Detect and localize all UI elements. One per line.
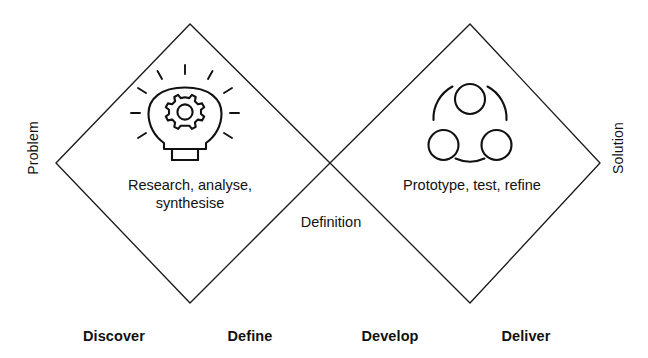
center-label-definition: Definition: [288, 214, 374, 230]
problem-diamond-shape: [56, 24, 330, 303]
stage-label-develop: Develop: [340, 328, 440, 344]
solution-diamond-description: Prototype, test, refine: [377, 176, 567, 194]
stage-label-define: Define: [200, 328, 300, 344]
three-circles-icon: [429, 84, 512, 162]
double-diamond-diagram: Problem Solution Research, analyse, synt…: [0, 0, 648, 358]
problem-diamond-description: Research, analyse, synthesise: [97, 176, 283, 212]
axis-label-problem: Problem: [25, 103, 41, 193]
gear-icon: [166, 95, 204, 129]
stage-label-discover: Discover: [64, 328, 164, 344]
axis-label-solution: Solution: [610, 103, 626, 193]
solution-diamond-shape: [330, 24, 600, 303]
lightbulb-gear-icon: [131, 65, 239, 160]
stage-label-deliver: Deliver: [476, 328, 576, 344]
